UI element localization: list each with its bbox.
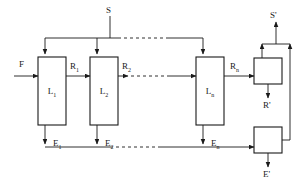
label-raffinate-out: R' xyxy=(263,100,271,110)
label-extract-out: E' xyxy=(263,169,270,179)
label-extract-2: E2 xyxy=(105,138,114,150)
collector-box-extract xyxy=(254,127,282,153)
label-extract-1: E1 xyxy=(53,138,62,150)
flowsheet-canvas: F S S' R' E' L1 L2 Ln R1 R2 Rn E1 E2 En xyxy=(0,0,303,183)
label-feed: F xyxy=(19,59,24,69)
solvent-header-group xyxy=(45,16,203,54)
collector-box-raffinate xyxy=(254,58,282,84)
label-solvent-out: S' xyxy=(270,10,277,20)
label-extract-n: En xyxy=(211,138,220,150)
label-raffinate-2: R2 xyxy=(122,61,131,73)
process-flow-diagram: F S S' R' E' L1 L2 Ln R1 R2 Rn E1 E2 En xyxy=(0,0,303,183)
label-raffinate-1: R1 xyxy=(70,61,79,73)
label-raffinate-n: Rn xyxy=(230,61,239,73)
label-solvent: S xyxy=(106,5,111,15)
